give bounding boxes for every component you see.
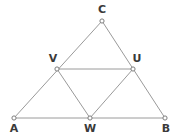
vertex-label-w: W: [84, 122, 96, 135]
vertex-label-u: U: [133, 52, 142, 65]
edges-group: [14, 21, 165, 118]
vertex-label-b: B: [162, 122, 170, 135]
vertex-marker-a: [12, 116, 16, 120]
segment-vw: [57, 69, 90, 118]
vertex-marker-u: [131, 67, 135, 71]
vertex-label-c: C: [98, 3, 106, 16]
segment-uw: [90, 69, 133, 118]
geometry-canvas: ABCVUW: [0, 0, 174, 137]
geometry-figure: ABCVUW: [0, 0, 174, 137]
vertex-marker-w: [88, 116, 92, 120]
vertex-marker-b: [163, 116, 167, 120]
vertex-marker-v: [55, 67, 59, 71]
vertex-label-v: V: [49, 52, 58, 65]
vertex-marker-c: [100, 19, 104, 23]
vertex-label-a: A: [10, 122, 19, 135]
